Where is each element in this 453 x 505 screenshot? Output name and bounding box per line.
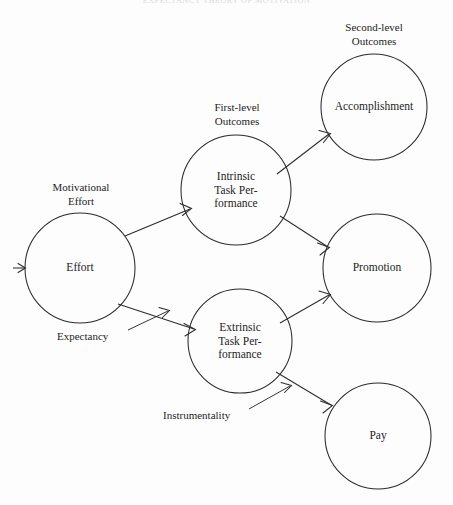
edge-input-to-effort	[13, 264, 26, 273]
edge-label-expectancy: Expectancy	[57, 330, 108, 343]
edge-label-instrumentality: Instrumentality	[163, 409, 230, 422]
node-circle-intrinsic[interactable]	[181, 135, 291, 245]
group-label-motivational-effort: Motivational Effort	[26, 181, 136, 208]
edge-effort-to-intrinsic	[125, 204, 192, 237]
node-circle-extrinsic[interactable]	[188, 289, 292, 393]
edge-intrinsic-to-accomplishment	[277, 131, 331, 175]
diagram-graphics	[0, 0, 453, 505]
group-label-first-level-outcomes: First-level Outcomes	[182, 101, 292, 128]
edge-effort-to-extrinsic	[118, 304, 196, 336]
edge-extrinsic-to-promotion	[280, 291, 331, 323]
node-circle-pay[interactable]	[325, 383, 431, 489]
pointer-instrumentality	[249, 383, 292, 410]
node-circle-effort[interactable]	[25, 213, 135, 323]
diagram-canvas: EXPECTANCY THEORY OF MOTIVATION	[0, 0, 453, 505]
group-label-second-level-outcomes: Second-level Outcomes	[318, 21, 430, 48]
node-circle-promotion[interactable]	[323, 214, 431, 322]
edge-intrinsic-to-promotion	[280, 216, 330, 255]
node-circle-accomplishment[interactable]	[321, 54, 427, 160]
